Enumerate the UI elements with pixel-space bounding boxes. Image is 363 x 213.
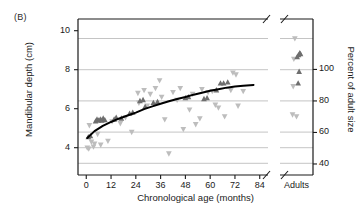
plot-frame xyxy=(78,19,313,175)
y2-axis-tick-label: 80 xyxy=(319,95,343,105)
y-axis-tick-label: 4 xyxy=(48,142,70,152)
figure-panel-b: (B) Mandibular depth (cm) Percent of adu… xyxy=(0,0,363,213)
x-axis-tick-label: 0 xyxy=(74,180,98,190)
x-axis-tick-label: 84 xyxy=(248,180,272,190)
fitted-curve xyxy=(87,85,253,138)
y-axis-tick-label: 10 xyxy=(48,25,70,35)
tick-marks-group xyxy=(74,31,317,179)
x-axis-tick-label: 24 xyxy=(124,180,148,190)
x-axis-tick-label: 60 xyxy=(198,180,222,190)
data-points-light xyxy=(84,36,299,156)
y-axis-tick-label: 6 xyxy=(48,103,70,113)
y2-axis-tick-label: 100 xyxy=(319,63,343,73)
x-axis-tick-label: 36 xyxy=(149,180,173,190)
y-axis-tick-label: 8 xyxy=(48,64,70,74)
gridlines-group xyxy=(78,39,313,164)
x-axis-tick-label-adults: Adults xyxy=(275,180,319,190)
y2-axis-tick-label: 60 xyxy=(319,126,343,136)
x-axis-tick-label: 12 xyxy=(99,180,123,190)
y2-axis-tick-label: 40 xyxy=(319,158,343,168)
x-axis-tick-label: 48 xyxy=(173,180,197,190)
axis-break-marks xyxy=(263,15,288,179)
x-axis-tick-label: 72 xyxy=(223,180,247,190)
